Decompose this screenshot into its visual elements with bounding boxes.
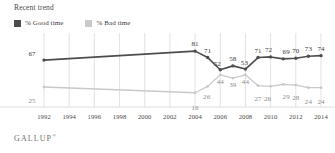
x-axis-tick-label: 2012 [289, 113, 303, 120]
chart-legend: % Good time % Bad time [14, 18, 131, 28]
data-point-marker [244, 73, 247, 76]
data-point-marker [257, 84, 260, 87]
data-point-marker [282, 83, 285, 86]
data-label: 26 [203, 93, 210, 101]
x-axis-tick-label: 2002 [163, 113, 177, 120]
chart-plot-area: 6781715258537172697073742516264439442726… [0, 33, 335, 112]
x-axis-tick-label: 2006 [213, 113, 227, 120]
x-axis-tick-label: 2010 [264, 113, 278, 120]
data-point-marker [193, 49, 196, 52]
x-axis-tick-label: 1994 [62, 113, 76, 120]
data-label: 70 [292, 47, 299, 55]
legend-swatch-bad-time-icon [85, 20, 92, 27]
x-axis-tick-label: 2014 [314, 113, 328, 120]
data-point-marker [231, 64, 234, 67]
data-point-marker [269, 55, 272, 58]
legend-item-bad-time: % Bad time [85, 19, 130, 27]
data-label: 28 [292, 94, 299, 102]
data-label: 58 [229, 55, 236, 63]
data-label: 53 [241, 59, 248, 67]
data-point-marker [269, 85, 272, 88]
data-point-marker [206, 85, 209, 88]
x-axis-tick-label: 1996 [88, 113, 102, 120]
data-label: 67 [28, 50, 35, 58]
data-point-marker [219, 73, 222, 76]
data-label: 72 [265, 46, 272, 54]
data-point-marker [194, 91, 197, 94]
legend-item-good-time: % Good time [14, 19, 63, 27]
data-point-marker [231, 77, 234, 80]
chart-title: Recent trend [14, 3, 54, 12]
gallup-logo: GALLUP® [14, 133, 56, 143]
data-label: 29 [283, 93, 290, 101]
x-axis-tick-label: 2000 [138, 113, 152, 120]
x-axis-tick-label: 1998 [113, 113, 127, 120]
data-point-marker [307, 86, 310, 89]
data-label: 24 [305, 98, 312, 106]
data-point-marker [282, 57, 285, 60]
data-label: 52 [214, 60, 221, 68]
data-label: 39 [229, 81, 236, 89]
data-label: 25 [28, 97, 35, 105]
x-axis-tick-label: 1992 [37, 113, 51, 120]
data-point-marker [42, 58, 45, 61]
data-point-marker [319, 54, 322, 57]
data-point-marker [219, 68, 222, 71]
data-point-marker [256, 56, 259, 59]
data-label: 69 [283, 48, 290, 56]
data-label: 81 [191, 40, 198, 48]
data-label: 24 [317, 98, 324, 106]
data-point-marker [294, 84, 297, 87]
data-point-marker [244, 67, 247, 70]
x-axis-tick-label: 2008 [239, 113, 253, 120]
data-label: 27 [254, 95, 261, 103]
data-label: 44 [217, 78, 224, 86]
data-label: 73 [305, 45, 312, 53]
data-label: 44 [242, 78, 249, 86]
data-label: 71 [254, 47, 261, 55]
data-label: 26 [264, 95, 271, 103]
legend-label-bad-time: % Bad time [96, 19, 130, 27]
legend-swatch-good-time-icon [14, 20, 21, 27]
series-line-bad-time [44, 75, 321, 93]
data-point-marker [43, 86, 46, 89]
legend-label-good-time: % Good time [25, 19, 63, 27]
data-label: 16 [191, 104, 198, 112]
data-point-marker [294, 57, 297, 60]
chart-series-layer [42, 49, 322, 94]
data-label: 71 [204, 47, 211, 55]
x-axis-tick-label: 2004 [188, 113, 202, 120]
data-point-marker [320, 86, 323, 89]
data-point-marker [206, 56, 209, 59]
data-point-marker [307, 55, 310, 58]
data-label: 74 [317, 45, 324, 53]
recent-trend-chart-card: Recent trend % Good time % Bad time 6781… [0, 0, 335, 153]
chart-x-axis: 1992199419961998200020022004200620082010… [0, 113, 335, 125]
series-line-good-time [44, 51, 321, 70]
